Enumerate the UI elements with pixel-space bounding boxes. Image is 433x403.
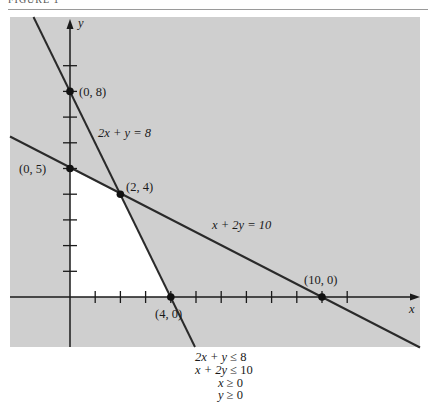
x-axis-label: x (408, 302, 415, 316)
point-0-5 (66, 165, 74, 173)
point-label-0-8: (0, 8) (79, 85, 106, 99)
line-label-x-plus-2y: x + 2y = 10 (211, 218, 272, 232)
constraint-rhs: 8 (240, 350, 246, 364)
feasible-region-diagram: y x (0, 8) (0, 5) (2, 4) (4, 0) (10, 0) … (0, 0, 433, 403)
point-10-0 (318, 293, 326, 301)
point-label-2-4: (2, 4) (126, 180, 153, 194)
constraint-2: x + 2y ≤ 10 (195, 364, 253, 377)
constraint-1: 2x + y ≤ 8 (195, 351, 246, 364)
point-label-0-5: (0, 5) (19, 162, 46, 176)
line-label-2x-plus-y: 2x + y = 8 (98, 126, 152, 140)
constraint-op: ≤ (230, 350, 237, 364)
constraint-4: y ≥ 0 (218, 389, 243, 402)
point-label-4-0: (4, 0) (155, 307, 182, 321)
point-0-8 (66, 88, 74, 96)
constraint-op: ≤ (230, 363, 237, 377)
y-axis-label: y (76, 16, 84, 30)
constraint-op: ≥ (227, 388, 234, 402)
constraint-lhs: 2x + y (195, 350, 227, 364)
constraint-lhs: x + 2y (195, 363, 227, 377)
constraint-lhs: y (218, 388, 224, 402)
constraint-rhs: 10 (240, 363, 253, 377)
point-label-10-0: (10, 0) (304, 273, 337, 287)
point-2-4 (117, 190, 125, 198)
point-4-0 (167, 293, 175, 301)
constraint-rhs: 0 (237, 388, 243, 402)
